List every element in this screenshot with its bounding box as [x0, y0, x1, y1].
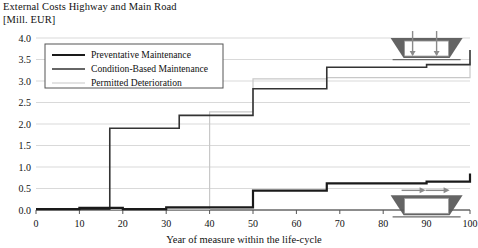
chart-canvas: 0.00.51.01.52.02.53.03.54.0 010203040506…	[0, 0, 478, 248]
y-tick-label: 2.0	[19, 119, 32, 130]
x-tick-label: 60	[291, 218, 301, 229]
x-tick-label: 30	[161, 218, 171, 229]
y-tick-label: 0.5	[19, 183, 32, 194]
x-tick-labels: 0102030405060708090100	[34, 218, 478, 229]
bridge-horizontal-load-marker	[391, 187, 463, 217]
y-tick-label: 4.0	[19, 33, 32, 44]
x-axis-label: Year of measure within the life-cycle	[166, 234, 322, 245]
x-tick-label: 80	[378, 218, 388, 229]
x-tick-label: 40	[205, 218, 215, 229]
x-tick-label: 70	[335, 218, 345, 229]
legend-box: Preventative MaintenanceCondition-Based …	[45, 44, 223, 88]
bridge-vertical-load-marker	[391, 31, 463, 60]
x-tick-label: 100	[463, 218, 478, 229]
legend-item-label: Preventative Maintenance	[91, 49, 191, 60]
y-tick-label: 1.5	[19, 140, 32, 151]
y-tick-label: 3.5	[19, 54, 32, 65]
x-tick-label: 90	[422, 218, 432, 229]
chart-root: External Costs Highway and Main Road [Mi…	[0, 0, 478, 248]
legend-item-label: Condition-Based Maintenance	[91, 63, 208, 74]
y-tick-label: 1.0	[19, 162, 32, 173]
x-tick-label: 0	[34, 218, 39, 229]
legend-item-label: Permitted Deterioration	[91, 77, 182, 88]
x-tick-label: 10	[74, 218, 84, 229]
x-tick-label: 20	[118, 218, 128, 229]
x-tick-label: 50	[248, 218, 258, 229]
y-tick-label: 3.0	[19, 76, 32, 87]
y-tick-label: 0.0	[19, 205, 32, 216]
y-tick-labels: 0.00.51.01.52.02.53.03.54.0	[19, 33, 32, 216]
y-tick-label: 2.5	[19, 97, 32, 108]
